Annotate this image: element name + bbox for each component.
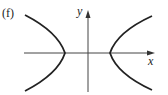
x-axis-arrow-icon [147, 51, 155, 56]
y-axis [86, 10, 91, 92]
graph-canvas [0, 0, 168, 95]
y-axis-arrow-icon [86, 10, 91, 18]
hyperbola-figure: (f) y x [0, 0, 168, 95]
x-axis [24, 51, 155, 56]
